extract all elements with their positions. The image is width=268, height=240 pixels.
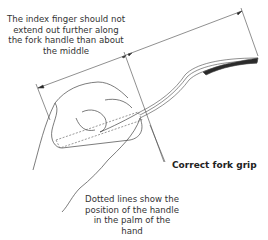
hand	[33, 82, 142, 212]
fork	[140, 58, 258, 118]
dotted-lines-note: Dotted lines show the position of the ha…	[82, 194, 182, 236]
index-finger-note: The index finger should not extend out f…	[6, 14, 126, 56]
hidden-handle-dotted	[56, 112, 142, 148]
caption-leader-line	[150, 125, 165, 162]
figure-caption: Correct fork grip	[172, 160, 257, 171]
